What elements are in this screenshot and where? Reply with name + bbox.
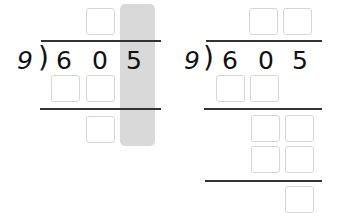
dividend-digit-2: 0 xyxy=(258,48,274,73)
divisor: 9 xyxy=(184,48,200,73)
column-highlight xyxy=(120,4,155,146)
dividend-digit-3: 5 xyxy=(126,48,142,73)
quotient-box-1[interactable] xyxy=(86,8,115,35)
product-box-2[interactable] xyxy=(86,75,115,102)
quotient-box-2[interactable] xyxy=(283,8,312,35)
division-bar xyxy=(41,40,161,42)
division-bracket: ) xyxy=(203,44,214,72)
division-bracket: ) xyxy=(38,44,49,72)
bring-down-box-2[interactable] xyxy=(285,115,314,142)
bring-down-box-1[interactable] xyxy=(251,115,280,142)
divisor: 9 xyxy=(17,48,33,73)
dividend-digit-1: 6 xyxy=(56,48,72,73)
dividend-digit-3: 5 xyxy=(292,48,308,73)
dividend-digit-1: 6 xyxy=(222,48,238,73)
second-product-box-2[interactable] xyxy=(285,146,314,173)
remainder-box[interactable] xyxy=(285,186,314,213)
second-product-box-1[interactable] xyxy=(251,146,280,173)
division-bar xyxy=(206,40,322,42)
subtraction-line-1 xyxy=(204,108,322,110)
product-box-1[interactable] xyxy=(216,75,245,102)
subtraction-line-2 xyxy=(205,180,322,182)
quotient-box-1[interactable] xyxy=(249,8,278,35)
remainder-box[interactable] xyxy=(86,116,115,143)
subtraction-line xyxy=(40,108,161,110)
product-box-1[interactable] xyxy=(51,75,80,102)
dividend-digit-2: 0 xyxy=(92,48,108,73)
product-box-2[interactable] xyxy=(250,75,279,102)
